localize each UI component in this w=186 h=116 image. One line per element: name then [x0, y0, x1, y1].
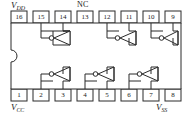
pin-number-label: 13: [82, 13, 90, 21]
inverter-bubble-icon: [115, 36, 120, 41]
label-vdd-subscript: DD: [17, 5, 25, 11]
pin-number-label: 5: [105, 91, 109, 99]
label-vcc-subscript: CC: [17, 107, 25, 113]
pin-number-label: 6: [127, 91, 131, 99]
pin-pad-10[interactable]: 10: [143, 11, 159, 23]
pin-number-label: 16: [16, 13, 24, 21]
inverter-bubble-icon: [49, 36, 54, 41]
pin-pad-11[interactable]: 11: [121, 11, 137, 23]
pin-number-label: 11: [126, 13, 133, 21]
pin-pad-8[interactable]: 8: [165, 89, 181, 101]
pin-pad-3[interactable]: 3: [55, 89, 71, 101]
pin-row-top: 16 15 14 13 12 11: [11, 11, 181, 23]
label-vcc-base: V: [11, 102, 17, 112]
pin-pad-13[interactable]: 13: [77, 11, 93, 23]
pin-pad-15[interactable]: 15: [33, 11, 49, 23]
pin-number-label: 14: [60, 13, 68, 21]
pin-number-label: 7: [149, 91, 153, 99]
pin-number-label: 10: [148, 13, 156, 21]
label-vss-base: V: [156, 102, 162, 112]
label-nc: NC: [77, 1, 89, 9]
inverter-bubble-icon: [159, 36, 164, 41]
label-vss: VSS: [156, 103, 167, 112]
ic-pinout-diagram: 16 15 14 13 12 11: [0, 0, 186, 116]
pin-pad-12[interactable]: 12: [99, 11, 115, 23]
inverter-bubble-icon: [49, 72, 54, 77]
inverter-bubble-icon: [93, 72, 98, 77]
pin-pad-7[interactable]: 7: [143, 89, 159, 101]
label-vdd-base: V: [11, 0, 17, 10]
pin-number-label: 3: [61, 91, 65, 99]
label-vcc: VCC: [11, 103, 24, 112]
pin-number-label: 15: [38, 13, 46, 21]
pin-pad-5[interactable]: 5: [99, 89, 115, 101]
label-vss-subscript: SS: [162, 107, 168, 113]
pin-row-bottom: 1 2 3 4 5 6 7: [11, 89, 181, 101]
pin-number-label: 2: [39, 91, 43, 99]
pin-pad-6[interactable]: 6: [121, 89, 137, 101]
pin-number-label: 9: [171, 13, 175, 21]
pin-pad-9[interactable]: 9: [165, 11, 181, 23]
pin-pad-4[interactable]: 4: [77, 89, 93, 101]
pin-pad-2[interactable]: 2: [33, 89, 49, 101]
pin-number-label: 1: [17, 91, 21, 99]
pin-number-label: 12: [104, 13, 112, 21]
pin-number-label: 8: [171, 91, 175, 99]
pin-pad-16[interactable]: 16: [11, 11, 27, 23]
ic-package-drawing: 16 15 14 13 12 11: [0, 0, 186, 116]
label-nc-text: NC: [77, 0, 89, 9]
inverter-bubble-icon: [137, 72, 142, 77]
label-vdd: VDD: [11, 1, 25, 10]
pin-pad-14[interactable]: 14: [55, 11, 71, 23]
pin-number-label: 4: [83, 91, 87, 99]
pin-pad-1[interactable]: 1: [11, 89, 27, 101]
